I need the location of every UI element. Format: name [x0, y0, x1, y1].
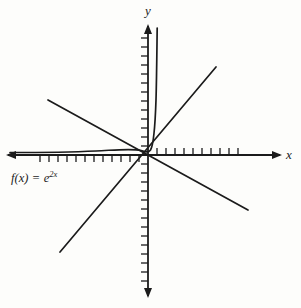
x-axis-label: x [286, 148, 292, 161]
function-argument: (x) [14, 171, 28, 185]
exponential-curve [10, 28, 157, 153]
x-axis-arrow-right [272, 151, 282, 159]
graph-canvas [0, 0, 301, 308]
exponent: 2x [49, 169, 57, 179]
y-axis-arrow-down [144, 288, 152, 298]
increasing-line [60, 67, 216, 252]
function-equation-label: f(x) = e2x [11, 172, 57, 186]
equals-sign: = [28, 171, 43, 185]
y-axis-arrow-up [144, 24, 152, 34]
exponential-function-figure: y x f(x) = e2x [0, 0, 301, 308]
y-axis-label: y [145, 4, 151, 17]
